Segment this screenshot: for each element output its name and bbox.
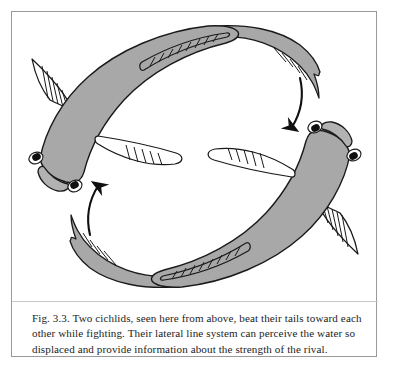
caption-line-3: displaced and provide information about … [32, 342, 359, 357]
caption-line-1: Fig. 3.3. Two cichlids, seen here from a… [32, 311, 359, 326]
cichlid-illustration [12, 12, 378, 301]
caption-separator-rule [12, 301, 378, 302]
figure-caption: Fig. 3.3. Two cichlids, seen here from a… [32, 311, 359, 357]
caption-line-2: other while fighting. Their lateral line… [32, 326, 359, 341]
arrow-right-downward [292, 78, 302, 127]
pectoral-fin-lower [208, 148, 295, 177]
pectoral-fin-lower [95, 136, 182, 165]
figure-frame: Fig. 3.3. Two cichlids, seen here from a… [11, 11, 377, 357]
illustration-area [12, 12, 378, 301]
figure-page: Fig. 3.3. Two cichlids, seen here from a… [0, 0, 399, 376]
arrow-left-upward [88, 186, 98, 235]
